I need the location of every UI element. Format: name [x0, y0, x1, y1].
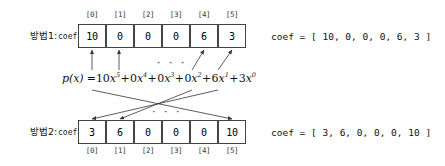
array-cell: 3 — [78, 120, 106, 144]
index-label: [5] — [218, 146, 246, 155]
index-label: [4] — [190, 146, 218, 155]
formula-op: + — [147, 72, 157, 85]
polynomial-formula: p(x) =10x5+0x4+0x3+0x2+6x1+3x0 — [62, 72, 256, 85]
coef-string-method1: coef = [ 10, 0, 0, 0, 6, 3 ] — [271, 31, 431, 42]
index-label: [0] — [78, 146, 106, 155]
coef-string-method2: coef = [ 3, 6, 0, 0, 0, 10 ] — [271, 127, 431, 138]
array-cell: 3 — [218, 24, 246, 48]
method1-coef-label: coef — [58, 32, 77, 41]
array-method1: 10 0 0 0 6 3 — [78, 24, 246, 48]
formula-lhs: p(x) = — [62, 72, 96, 85]
index-label: [5] — [218, 10, 246, 19]
formula-coef: 6 — [212, 72, 219, 85]
formula-coef: 10 — [96, 72, 110, 85]
method1-label: 방법1: — [30, 28, 57, 42]
array-cell: 0 — [162, 120, 190, 144]
index-label: [3] — [162, 146, 190, 155]
method2-coef-label: coef — [58, 128, 77, 137]
array-cell: 0 — [106, 24, 134, 48]
array-cell: 6 — [106, 120, 134, 144]
formula-op: + — [229, 72, 239, 85]
index-label: [3] — [162, 10, 190, 19]
index-label: [4] — [190, 10, 218, 19]
index-label: [1] — [106, 10, 134, 19]
formula-coef: 0 — [130, 72, 137, 85]
formula-op: + — [201, 72, 211, 85]
index-label: [1] — [106, 146, 134, 155]
index-label: [2] — [134, 146, 162, 155]
array-cell: 6 — [190, 24, 218, 48]
array-cell: 0 — [134, 120, 162, 144]
index-labels-top: [0] [1] [2] [3] [4] [5] — [78, 10, 246, 19]
method2-label: 방법2: — [30, 124, 57, 138]
formula-coef: 3 — [239, 72, 246, 85]
formula-op: + — [174, 72, 184, 85]
ellipsis-bottom: · · · — [152, 105, 182, 118]
coefficient-array-diagram: [0] [1] [2] [3] [4] [5] 방법1: coef 10 0 0… — [0, 0, 445, 166]
array-cell: 10 — [78, 24, 106, 48]
index-label: [2] — [134, 10, 162, 19]
array-cell: 0 — [162, 24, 190, 48]
formula-op: + — [120, 72, 130, 85]
array-method2: 3 6 0 0 0 10 — [78, 120, 246, 144]
ellipsis-top: · · · — [157, 56, 187, 69]
array-cell: 10 — [218, 120, 246, 144]
index-labels-bottom: [0] [1] [2] [3] [4] [5] — [78, 146, 246, 155]
arrow-up-4 — [192, 50, 204, 70]
arrow-up-5 — [218, 50, 232, 70]
formula-exp: 0 — [252, 71, 256, 79]
index-label: [0] — [78, 10, 106, 19]
array-cell: 0 — [134, 24, 162, 48]
array-cell: 0 — [190, 120, 218, 144]
